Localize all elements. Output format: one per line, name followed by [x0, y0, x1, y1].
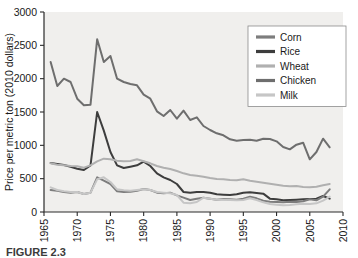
legend-label-chicken: Chicken [280, 75, 316, 86]
x-tick-label: 2010 [337, 219, 349, 243]
figure-container: 1965197019751980198519901995200020052010… [0, 0, 358, 258]
x-tick-label: 1980 [137, 219, 149, 243]
legend-label-milk: Milk [280, 90, 299, 101]
y-tick-label: 0 [31, 206, 37, 218]
y-tick-label: 500 [19, 172, 37, 184]
y-tick-label: 1500 [14, 106, 38, 118]
x-tick-label: 2005 [304, 219, 316, 243]
x-tick-label: 2000 [270, 219, 282, 243]
chart-legend: CornRiceWheatChickenMilk [248, 26, 346, 107]
x-tick-label: 1995 [237, 219, 249, 243]
y-tick-label: 1000 [14, 139, 38, 151]
x-tick-label: 1965 [38, 219, 50, 243]
legend-label-corn: Corn [280, 32, 302, 43]
y-tick-label: 2500 [14, 39, 38, 51]
x-axis-tick-labels: 1965197019751980198519901995200020052010 [38, 219, 349, 243]
y-axis-tick-labels: 050010001500200025003000 [14, 6, 38, 218]
y-axis-title: Price per metric ton (2010 dollars) [3, 33, 15, 191]
figure-caption: FIGURE 2.3 [6, 246, 66, 258]
y-tick-label: 2000 [14, 72, 38, 84]
x-tick-label: 1970 [71, 219, 83, 243]
x-tick-label: 1975 [104, 219, 116, 243]
legend-label-wheat: Wheat [280, 61, 309, 72]
y-tick-label: 3000 [14, 6, 38, 18]
legend-label-rice: Rice [280, 46, 300, 57]
x-tick-label: 1990 [204, 219, 216, 243]
price-trend-line-chart: 1965197019751980198519901995200020052010… [0, 0, 358, 258]
x-tick-label: 1985 [171, 219, 183, 243]
